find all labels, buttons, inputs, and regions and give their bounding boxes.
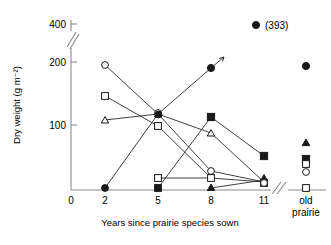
marker-open-circle-y11 [261,180,268,187]
x-tick-label-0: 0 [68,195,74,206]
series-line-open-triangle [105,114,264,182]
x-axis-break-icon [271,182,288,195]
marker-filled-circle-y5 [155,111,162,118]
marker-open-circle-y2 [102,62,109,69]
marker-filled-circle-y2 [102,185,109,192]
markers-year-5 [154,110,162,192]
marker-open-triangle-y8 [207,130,214,136]
marker-open-circle-y8 [208,168,215,175]
y-tick-label-200: 200 [49,57,66,68]
axes [67,20,326,195]
y-tick-label-400: 400 [49,19,66,30]
marker-open-square-low-y5 [155,175,162,182]
x-category-label-prairie: prairie [292,207,320,218]
annotation-393-label: (393) [265,20,288,31]
marker-filled-square-y8 [207,113,214,120]
chart-figure: 400 200 100 Dry weight (g m⁻²) 0 2 5 8 1… [0,0,331,245]
y-axis-title: Dry weight (g m⁻²) [11,66,22,144]
markers-year-8 [207,64,214,190]
markers-year-2 [101,62,108,192]
marker-open-circle-old-prairie [303,169,310,176]
y-tick-label-100: 100 [49,120,66,131]
x-tick-label-5: 5 [155,195,161,206]
marker-filled-circle-y8 [207,64,214,71]
marker-filled-triangle-old-prairie [302,139,310,146]
marker-filled-circle-old-prairie [302,62,309,69]
x-tick-label-8: 8 [208,195,214,206]
x-category-label-old: old [299,195,312,206]
marker-open-square-old-prairie-upper [303,161,310,168]
annotation-393: (393) [252,20,288,31]
marker-open-square-y8 [208,175,215,182]
series-line-filled-triangle [211,180,264,188]
x-tick-label-11: 11 [259,195,270,206]
chart-svg: 400 200 100 Dry weight (g m⁻²) 0 2 5 8 1… [0,0,331,245]
marker-filled-square-y5 [155,185,162,192]
marker-filled-square-y11 [260,152,267,159]
y-axis-break-icon [67,31,79,49]
marker-open-square-y5 [155,123,162,130]
markers-old-prairie [302,62,310,191]
x-tick-label-2: 2 [102,195,108,206]
marker-open-square-y2 [102,93,109,100]
annotation-393-filled-circle-icon [252,21,259,28]
marker-open-square-old-prairie-lower [303,185,310,192]
x-axis-title: Years since prairie species sown [101,217,238,228]
series-lines [105,65,264,188]
markers-year-11 [260,152,267,186]
